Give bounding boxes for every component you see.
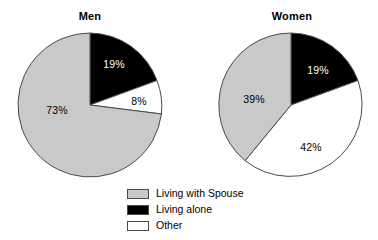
- legend-item-living-alone: Living alone: [127, 202, 245, 217]
- legend-label-other: Other: [156, 220, 182, 231]
- legend-item-other: Other: [127, 218, 245, 233]
- legend-swatch-gray-icon: [127, 189, 149, 199]
- women-label-living-with-spouse: 39%: [243, 93, 264, 105]
- men-label-living-with-spouse: 73%: [46, 104, 67, 116]
- men-label-living-alone: 19%: [103, 58, 124, 70]
- legend-label-living-with-spouse: Living with Spouse: [156, 188, 244, 199]
- chart-legend: Living with Spouse Living alone Other: [127, 186, 245, 234]
- legend-swatch-white-icon: [127, 221, 149, 231]
- legend-swatch-black-icon: [127, 205, 149, 215]
- men-label-other: 8%: [131, 95, 146, 107]
- women-label-other: 42%: [300, 141, 321, 153]
- pie-chart-figure: Men Women 19% 8% 73% 19% 42% 39% Living …: [0, 0, 378, 240]
- legend-label-living-alone: Living alone: [156, 204, 212, 215]
- legend-item-living-with-spouse: Living with Spouse: [127, 186, 245, 201]
- women-label-living-alone: 19%: [307, 64, 328, 76]
